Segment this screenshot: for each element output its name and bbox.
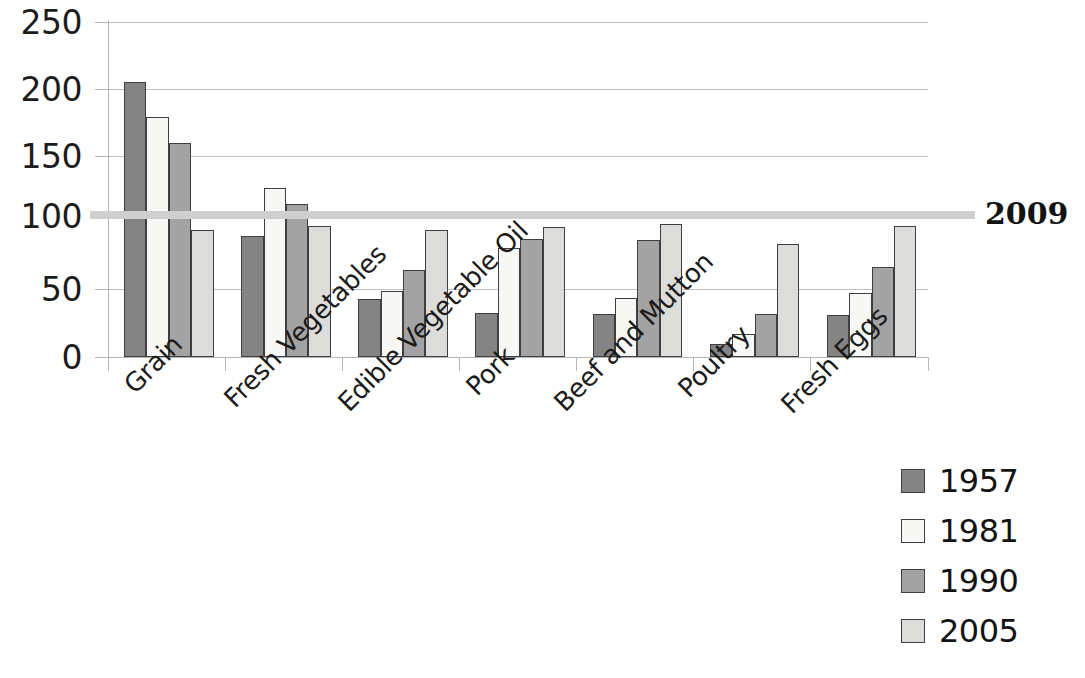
legend-swatch-2005 — [901, 619, 925, 643]
legend-swatch-1990 — [901, 569, 925, 593]
y-tick-250 — [95, 22, 109, 23]
bar-2005-poultry — [777, 244, 799, 357]
bar-1957-fresh-vegetables — [241, 236, 263, 357]
legend-item-1957[interactable]: 1957 — [901, 466, 1018, 496]
x-tick-0 — [108, 357, 109, 371]
y-axis-label-0: 0 — [0, 338, 82, 377]
legend-swatch-1981 — [901, 519, 925, 543]
reference-line-2009 — [90, 211, 975, 219]
gridline-250 — [108, 22, 928, 23]
bar-1990-poultry — [755, 314, 777, 357]
legend-label-1957: 1957 — [939, 465, 1018, 497]
y-axis-line — [108, 20, 109, 359]
bar-2005-fresh-eggs — [894, 226, 916, 357]
x-tick-2 — [342, 357, 343, 371]
y-axis-label-250: 250 — [0, 3, 82, 42]
y-axis-label-100: 100 — [0, 197, 82, 236]
bar-1990-pork — [520, 239, 542, 357]
y-tick-50 — [95, 289, 109, 290]
legend-item-1990[interactable]: 1990 — [901, 566, 1018, 596]
y-axis-label-200: 200 — [0, 70, 82, 109]
y-axis-label-150: 150 — [0, 137, 82, 176]
legend-swatch-1957 — [901, 469, 925, 493]
gridline-200 — [108, 89, 928, 90]
legend-item-1981[interactable]: 1981 — [901, 516, 1018, 546]
x-tick-1 — [225, 357, 226, 371]
legend-label-1981: 1981 — [939, 515, 1018, 547]
bar-1990-grain — [169, 143, 191, 357]
y-axis-label-50: 50 — [0, 270, 82, 309]
gridline-150 — [108, 156, 928, 157]
y-tick-200 — [95, 89, 109, 90]
x-tick-3 — [459, 357, 460, 371]
legend-label-1990: 1990 — [939, 565, 1018, 597]
bar-1957-edible-vegetable-oil — [358, 299, 380, 357]
bar-2005-grain — [191, 230, 213, 357]
y-tick-0 — [95, 357, 109, 358]
chart-canvas: 250 200 150 100 50 0 2009 GrainFresh Veg… — [0, 0, 1085, 678]
legend-label-2005: 2005 — [939, 615, 1018, 647]
legend-item-2005[interactable]: 2005 — [901, 616, 1018, 646]
reference-line-label: 2009 — [985, 196, 1069, 231]
x-tick-7 — [928, 357, 929, 371]
bar-2005-pork — [543, 227, 565, 357]
y-tick-150 — [95, 156, 109, 157]
bar-1981-grain — [146, 117, 168, 357]
bar-1957-grain — [124, 82, 146, 357]
